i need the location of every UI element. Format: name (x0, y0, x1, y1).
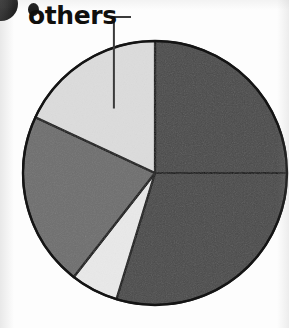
pie-slice-segment-1 (155, 41, 287, 173)
others-label: others (28, 1, 117, 30)
pie-slice-group (23, 41, 287, 305)
pie-chart (0, 0, 289, 328)
pie-chart-screenshot: others (0, 0, 289, 328)
